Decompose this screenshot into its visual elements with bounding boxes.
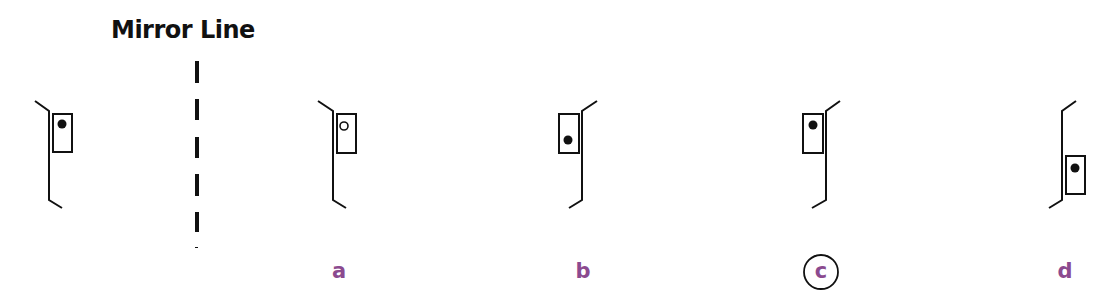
option-label-a[interactable]: a [324, 261, 354, 282]
option-a-bent-line [318, 101, 346, 208]
option-b-figure[interactable] [559, 101, 597, 208]
option-d-rectangle [1066, 156, 1085, 194]
original-bent-line [35, 101, 62, 208]
option-b-rectangle [559, 114, 579, 153]
original-filled-dot-icon [58, 120, 67, 129]
option-b-filled-dot-icon [564, 136, 573, 145]
option-a-rectangle [337, 114, 356, 153]
option-b-bent-line [569, 101, 597, 208]
option-c-rectangle [803, 114, 823, 153]
option-d-filled-dot-icon [1071, 164, 1080, 173]
mirror-line [195, 61, 199, 248]
option-d-bent-line [1049, 101, 1076, 208]
mirror-image-question: Mirror Line [0, 0, 1110, 301]
mirror-dash [195, 212, 199, 232]
option-label-c[interactable]: c [806, 261, 836, 282]
option-c-filled-dot-icon [809, 121, 818, 130]
option-b-text: b [575, 259, 590, 283]
option-label-b[interactable]: b [568, 261, 598, 282]
option-a-text: a [332, 259, 346, 283]
mirror-dash [195, 174, 199, 196]
mirror-dash [195, 61, 199, 83]
mirror-dash [195, 99, 199, 120]
option-c-figure[interactable] [803, 101, 840, 208]
option-a-hollow-dot-icon [340, 122, 348, 130]
option-d-figure[interactable] [1049, 101, 1085, 208]
option-a-figure[interactable] [318, 101, 356, 208]
option-c-text: c [815, 259, 827, 283]
option-label-d[interactable]: d [1050, 261, 1080, 282]
option-c-bent-line [812, 101, 840, 208]
option-d-text: d [1057, 259, 1072, 283]
mirror-dash [195, 247, 198, 248]
diagram-canvas [0, 0, 1110, 301]
mirror-dash [195, 137, 199, 158]
mirror-line-title: Mirror Line [111, 16, 255, 44]
original-figure [35, 101, 72, 208]
